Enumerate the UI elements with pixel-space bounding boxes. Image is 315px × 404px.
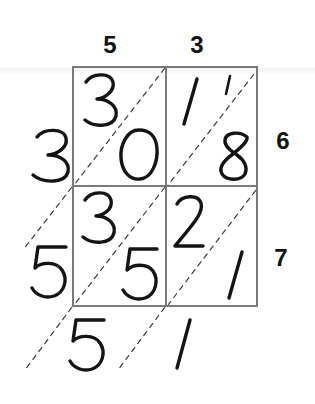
top-factor-digit-ones: 3 xyxy=(190,31,203,58)
diagonal-extension-bottom-mid xyxy=(118,307,165,370)
diagonal-cell-1-0 xyxy=(74,187,165,305)
lattice-diagram: 5 3 6 7 xyxy=(0,0,315,404)
result-digits-left xyxy=(32,130,68,297)
cell-0-0-tens-digit-3 xyxy=(85,75,116,125)
lattice-diagonals xyxy=(23,68,256,370)
diagonal-extension-bottom-left xyxy=(25,307,72,370)
cell-0-1-ones-digit-8 xyxy=(221,133,247,179)
cell-1-0-ones-digit-5 xyxy=(123,249,157,299)
cell-1-1-tens-digit-2 xyxy=(175,197,203,246)
cell-0-0-ones-digit-0 xyxy=(121,130,157,179)
diagonal-cell-0-1 xyxy=(168,74,254,185)
cell-0-1-tens-digit-1 xyxy=(184,79,197,124)
result-digit-ones-1 xyxy=(177,320,190,368)
right-factor-digit-tens: 6 xyxy=(276,127,289,154)
result-digit-thousands-3 xyxy=(33,130,68,181)
cell-1-0-tens-digit-3 xyxy=(83,193,114,242)
cell-0-1-carry-mark-1 xyxy=(226,76,230,94)
result-digit-hundreds-5 xyxy=(32,247,66,297)
top-factor-digit-tens: 5 xyxy=(103,31,116,58)
diagonal-cell-0-0 xyxy=(74,68,165,185)
cell-1-1 xyxy=(175,197,242,298)
diagonal-extension-left xyxy=(23,187,72,250)
result-digit-tens-5 xyxy=(70,320,104,370)
right-factor-digit-ones: 7 xyxy=(274,244,287,271)
cell-1-1-ones-digit-1 xyxy=(229,252,242,298)
cell-0-0 xyxy=(85,75,157,179)
cell-0-1 xyxy=(184,76,247,179)
result-digits-bottom xyxy=(70,320,190,370)
